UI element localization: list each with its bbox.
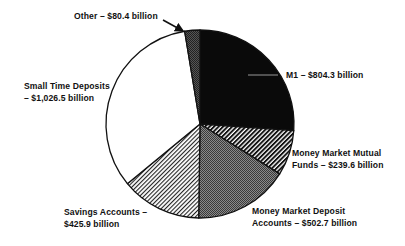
pie-slices [106,30,294,218]
label-other: Other – $80.4 billion [74,10,158,22]
label-mmda-line2: Accounts – $502.7 billion [252,217,357,229]
label-mmmf-line2: Funds – $239.6 billion [292,159,384,171]
label-savings-line1: Savings Accounts – [64,206,147,218]
label-small-time-line2: – $1,026.5 billion [24,92,110,104]
label-m1: M1 – $804.3 billion [286,69,363,81]
label-small-time-deposits: Small Time Deposits – $1,026.5 billion [24,80,110,104]
pie-slice-m1 [200,30,294,131]
label-mmda: Money Market Deposit Accounts – $502.7 b… [252,205,357,229]
label-savings-line2: $425.9 billion [64,218,147,230]
label-small-time-line1: Small Time Deposits [24,80,110,92]
other-arrow [163,20,183,31]
label-mmmf-line1: Money Market Mutual [292,147,384,159]
label-savings: Savings Accounts – $425.9 billion [64,206,147,230]
label-mmda-line1: Money Market Deposit [252,205,357,217]
label-mmmf: Money Market Mutual Funds – $239.6 billi… [292,147,384,171]
